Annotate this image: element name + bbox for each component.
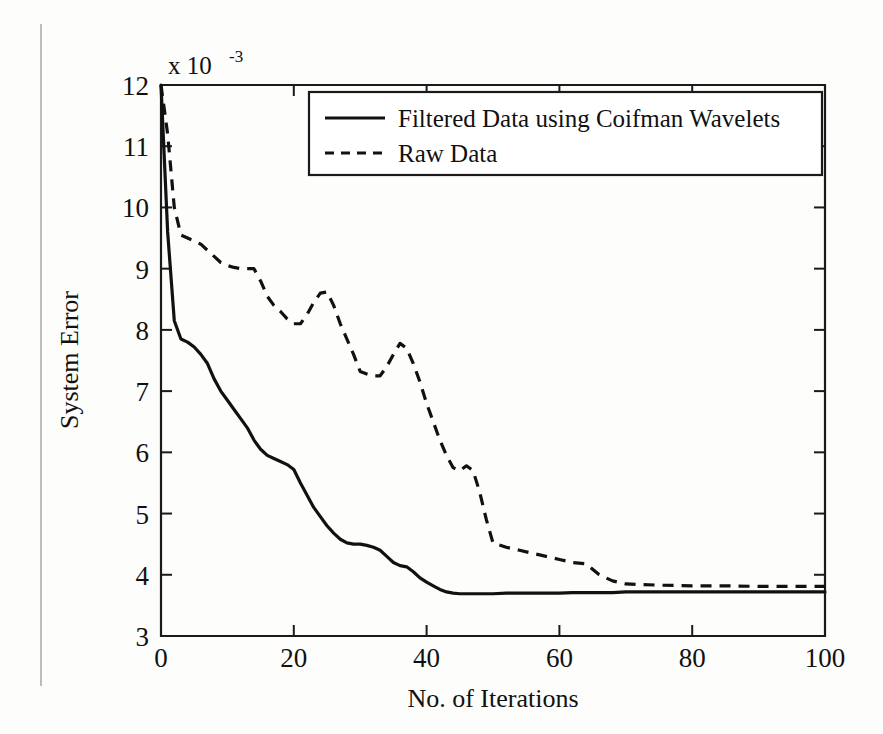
y-axis-tick-labels: 3456789101112 — [122, 71, 150, 652]
x-tick-label: 60 — [546, 643, 573, 673]
chart-legend: Filtered Data using Coifman Wavelets Raw… — [309, 92, 822, 175]
legend-label-raw: Raw Data — [398, 140, 497, 167]
y-tick-label: 3 — [136, 622, 150, 652]
y-tick-label: 12 — [122, 71, 149, 101]
x-tick-label: 80 — [679, 643, 706, 673]
x-tick-label: 100 — [805, 643, 846, 673]
y-tick-label: 11 — [123, 132, 149, 162]
figure-page: 020406080100 3456789101112 x 10 -3 No. o… — [0, 0, 883, 734]
legend-label-filtered: Filtered Data using Coifman Wavelets — [398, 105, 780, 132]
y-tick-label: 4 — [136, 561, 150, 591]
x-tick-label: 0 — [154, 643, 168, 673]
y-tick-label: 7 — [136, 377, 150, 407]
x-axis-tick-labels: 020406080100 — [154, 643, 845, 673]
x-tick-label: 20 — [280, 643, 307, 673]
chart-svg: 020406080100 3456789101112 x 10 -3 No. o… — [0, 0, 883, 734]
y-axis-exponent-power: -3 — [229, 47, 243, 66]
y-tick-label: 6 — [136, 438, 150, 468]
x-axis-title: No. of Iterations — [407, 684, 578, 713]
chart-figure: 020406080100 3456789101112 x 10 -3 No. o… — [0, 0, 883, 734]
y-tick-label: 10 — [122, 193, 149, 223]
y-axis-exponent-base: x 10 — [168, 52, 212, 79]
y-tick-label: 9 — [136, 255, 150, 285]
y-tick-label: 5 — [136, 500, 150, 530]
y-tick-label: 8 — [136, 316, 150, 346]
x-tick-label: 40 — [413, 643, 440, 673]
y-axis-exponent: x 10 -3 — [168, 47, 243, 79]
y-axis-title: System Error — [55, 291, 84, 429]
